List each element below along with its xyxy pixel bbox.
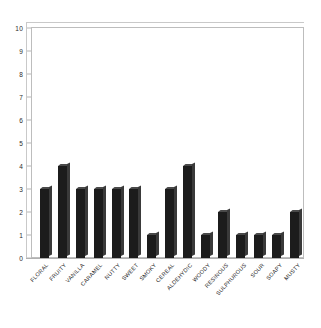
y-axis-tick-label: 1 <box>19 232 23 239</box>
bar-slot <box>36 28 54 258</box>
y-axis-tick-mark <box>27 166 31 167</box>
bar-slot <box>178 28 196 258</box>
bar-slot <box>161 28 179 258</box>
x-label-slot: SOUR <box>252 259 270 328</box>
bar <box>94 189 103 258</box>
y-axis: 109876543210 <box>0 22 31 258</box>
plot-area <box>32 28 303 258</box>
bar-slot <box>214 28 232 258</box>
y-axis-tick-mark <box>27 235 31 236</box>
x-label-slot: SULPHUROUS <box>234 259 252 328</box>
x-label-slot: SOAPY <box>270 259 288 328</box>
y-axis-tick-label: 5 <box>19 140 23 147</box>
x-label-slot: CARAMEL <box>90 259 108 328</box>
bar-slot <box>107 28 125 258</box>
y-axis-tick-mark <box>27 189 31 190</box>
x-label-slot: ALDEHYDIC <box>180 259 198 328</box>
x-label-slot: SWEET <box>126 259 144 328</box>
x-axis-tick-label: SOUR <box>249 262 265 279</box>
x-axis-tick-label: FLORAL <box>29 262 49 283</box>
bar-slot <box>250 28 268 258</box>
y-axis-tick-label: 10 <box>15 25 23 32</box>
x-label-slot: VANILLA <box>72 259 90 328</box>
bar-slot <box>196 28 214 258</box>
bar <box>147 235 156 258</box>
bar-slot <box>143 28 161 258</box>
y-axis-tick-mark <box>27 51 31 52</box>
x-label-slot: FLORAL <box>36 259 54 328</box>
x-label-slot: SMOKY <box>144 259 162 328</box>
x-label-slot: CEREAL <box>162 259 180 328</box>
x-label-slot: FRUITY <box>54 259 72 328</box>
bar-slot <box>267 28 285 258</box>
y-axis-tick-mark <box>27 120 31 121</box>
bar <box>58 166 67 258</box>
y-axis-tick-mark <box>27 212 31 213</box>
bar <box>236 235 245 258</box>
y-axis-tick-label: 9 <box>19 48 23 55</box>
y-axis-tick-label: 6 <box>19 117 23 124</box>
x-label-slot: MUSTY <box>288 259 306 328</box>
x-axis-tick-labels: FLORALFRUITYVANILLACARAMELNUTTYSWEETSMOK… <box>32 259 303 328</box>
bar <box>76 189 85 258</box>
y-axis-tick-mark <box>27 97 31 98</box>
y-axis-tick-label: 0 <box>19 255 23 262</box>
y-axis-tick-label: 7 <box>19 94 23 101</box>
bar <box>112 189 121 258</box>
bar <box>272 235 281 258</box>
y-axis-tick-label: 8 <box>19 71 23 78</box>
bar-slot <box>232 28 250 258</box>
bar <box>290 212 299 258</box>
x-label-slot: WOODY <box>198 259 216 328</box>
bar <box>183 166 192 258</box>
y-axis-tick-label: 4 <box>19 163 23 170</box>
y-axis-tick-mark <box>27 143 31 144</box>
x-label-slot: NUTTY <box>108 259 126 328</box>
bar-series <box>32 28 303 258</box>
bar-slot <box>54 28 72 258</box>
bar-slot <box>125 28 143 258</box>
bar <box>165 189 174 258</box>
bar-chart: 109876543210 FLORALFRUITYVANILLACARAMELN… <box>0 0 321 328</box>
y-axis-tick-label: 3 <box>19 186 23 193</box>
bar-slot <box>89 28 107 258</box>
y-axis-tick-mark <box>27 28 31 29</box>
bar <box>201 235 210 258</box>
bar <box>40 189 49 258</box>
y-axis-tick-mark <box>27 74 31 75</box>
bar <box>129 189 138 258</box>
bar <box>254 235 263 258</box>
bar <box>218 212 227 258</box>
bar-slot <box>285 28 303 258</box>
bar-slot <box>72 28 90 258</box>
y-axis-tick-label: 2 <box>19 209 23 216</box>
